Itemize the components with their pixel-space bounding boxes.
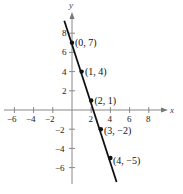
data-point [108, 156, 112, 160]
data-point [99, 127, 103, 131]
point-label: (2, 1) [95, 95, 117, 107]
y-tick-label: −2 [55, 125, 65, 135]
x-tick-label: 6 [127, 114, 132, 124]
x-axis: x −6 −4 −2 2 4 6 8 [4, 105, 174, 124]
point-labels: (0, 7) (1, 4) (2, 1) (3, −2) (4, −5) [75, 37, 140, 167]
y-tick-label: −4 [55, 144, 65, 154]
y-tick-label: 6 [62, 47, 67, 57]
point-label: (4, −5) [113, 155, 140, 167]
x-tick-label: 2 [89, 114, 94, 124]
x-tick-label: −4 [26, 114, 36, 124]
y-axis-arrow-icon [70, 12, 75, 19]
x-tick-label: 4 [108, 114, 113, 124]
y-axis: y 8 6 4 2 −2 −4 −6 [55, 0, 75, 184]
y-axis-label: y [68, 0, 73, 10]
data-point [89, 98, 93, 102]
y-tick-label: 2 [62, 86, 67, 96]
y-tick-label: 4 [62, 67, 67, 77]
x-tick-label: −6 [7, 114, 17, 124]
y-tick-label: −6 [55, 163, 65, 173]
point-label: (1, 4) [85, 66, 107, 78]
point-label: (3, −2) [104, 125, 131, 137]
data-point [79, 69, 83, 73]
point-label: (0, 7) [75, 37, 97, 49]
x-axis-label: x [169, 105, 174, 115]
x-tick-label: −2 [45, 114, 55, 124]
x-tick-label: 8 [146, 114, 151, 124]
x-axis-arrow-icon [161, 108, 168, 113]
line-graph: x −6 −4 −2 2 4 6 8 y 8 6 4 2 −2 −4 −6 [0, 0, 183, 194]
data-point [70, 41, 74, 45]
